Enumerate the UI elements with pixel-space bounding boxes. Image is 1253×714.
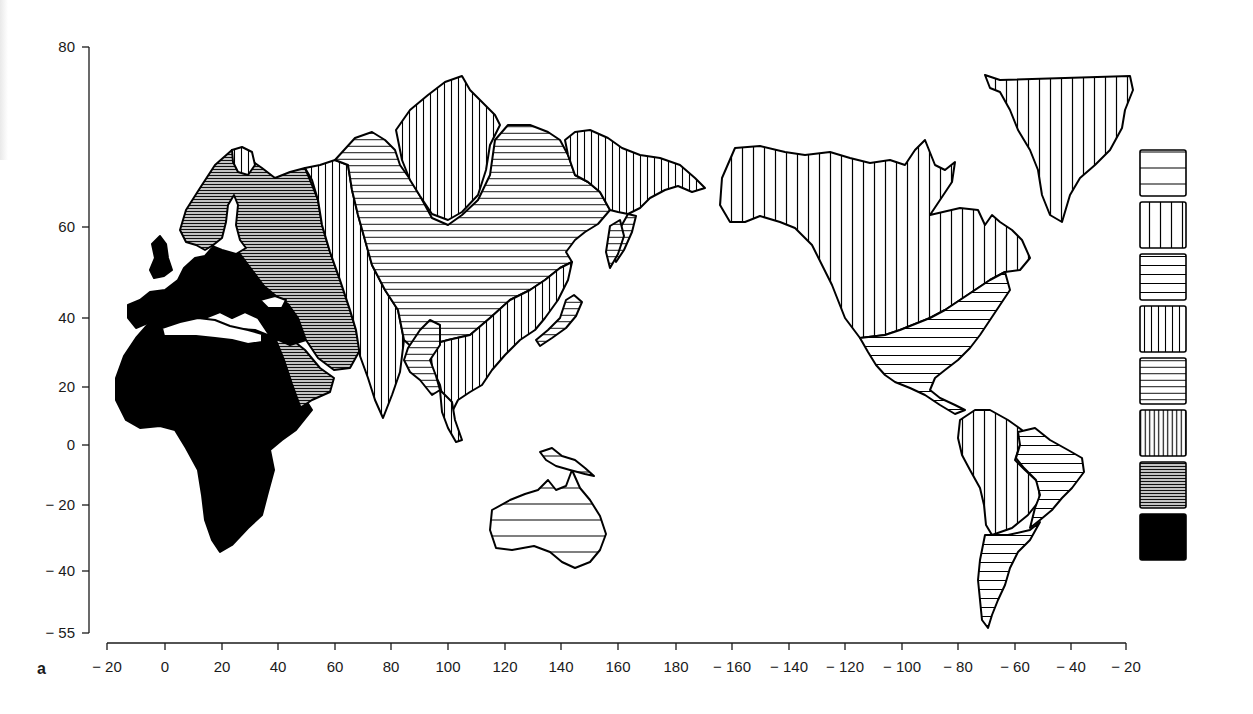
legend-swatch-class-5: [1140, 358, 1186, 404]
x-tick-label: 180: [663, 658, 688, 675]
region-britain: [150, 236, 172, 278]
y-tick-label: − 55: [45, 624, 75, 641]
land-masses: [116, 75, 1133, 628]
region-greenland: [985, 75, 1133, 222]
x-tick-label: − 140: [770, 658, 808, 675]
y-tick-label: − 40: [45, 562, 75, 579]
legend: [1140, 150, 1186, 560]
legend-swatch-class-6: [1140, 410, 1186, 456]
x-tick-label: 160: [605, 658, 630, 675]
x-tick-label: − 160: [713, 658, 751, 675]
x-tick-label: − 60: [1000, 658, 1030, 675]
y-axis: 806040200− 20− 40− 55: [45, 38, 89, 641]
y-tick-label: 0: [67, 436, 75, 453]
legend-swatch-class-7: [1140, 462, 1186, 508]
x-tick-label: 0: [161, 658, 169, 675]
y-tick-label: 80: [58, 38, 75, 55]
x-tick-label: − 20: [1111, 658, 1141, 675]
x-tick-label: 120: [492, 658, 517, 675]
legend-swatch-class-4: [1140, 306, 1186, 352]
x-axis-ticks: − 20020406080100120140160180− 160− 140− …: [92, 643, 1141, 675]
legend-swatch-class-1: [1140, 150, 1186, 196]
x-tick-label: − 100: [883, 658, 921, 675]
y-tick-label: − 20: [45, 496, 75, 513]
y-axis-ticks: 806040200− 20− 40− 55: [45, 38, 89, 641]
x-tick-label: 100: [435, 658, 460, 675]
x-tick-label: 60: [327, 658, 344, 675]
region-south-america-south: [978, 522, 1040, 628]
panel-label: a: [37, 660, 46, 677]
y-tick-label: 60: [58, 218, 75, 235]
y-tick-label: 20: [58, 378, 75, 395]
legend-swatch-class-3: [1140, 254, 1186, 300]
y-tick-label: 40: [58, 309, 75, 326]
x-axis: − 20020406080100120140160180− 160− 140− …: [92, 643, 1141, 675]
x-tick-label: − 120: [826, 658, 864, 675]
region-sakhalin: [606, 220, 624, 268]
x-tick-label: − 40: [1056, 658, 1086, 675]
x-tick-label: 40: [270, 658, 287, 675]
world-map-figure: 806040200− 20− 40− 55 − 2002040608010012…: [0, 0, 1253, 714]
region-australia: [490, 470, 606, 568]
x-tick-label: 140: [548, 658, 573, 675]
x-tick-label: − 80: [943, 658, 973, 675]
region-new-guinea: [540, 448, 594, 476]
x-tick-label: − 20: [92, 658, 122, 675]
x-tick-label: 20: [214, 658, 231, 675]
legend-swatch-class-8: [1140, 514, 1186, 560]
x-tick-label: 80: [383, 658, 400, 675]
legend-swatch-class-2: [1140, 202, 1186, 248]
